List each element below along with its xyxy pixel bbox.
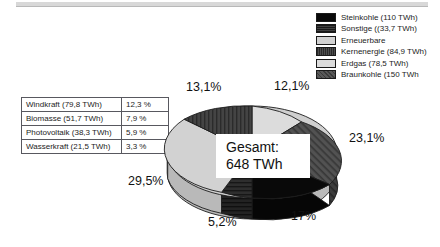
legend-item-steinkohle: Steinkohle (110 TWh) (316, 12, 440, 22)
legend-label-erdgas: Erdgas (78,5 TWh) (341, 59, 408, 68)
renewables-breakdown-table: Windkraft (79,8 TWh) 12,3 % Biomasse (51… (21, 97, 169, 154)
data-label-erdgas: 12,1% (274, 79, 309, 93)
legend-item-erneuerbare: Erneuerbare (316, 35, 440, 45)
data-label-erneuerbare: 29,5% (128, 174, 163, 188)
table-row: Windkraft (79,8 TWh) 12,3 % (22, 98, 169, 112)
legend-swatch-kernenergie (316, 47, 336, 56)
legend-swatch-steinkohle (316, 13, 336, 22)
legend-swatch-erdgas (316, 59, 336, 68)
table-row: Biomasse (51,7 TWh) 7,9 % (22, 112, 169, 126)
legend-item-erdgas: Erdgas (78,5 TWh) (316, 58, 440, 68)
legend-label-braunkohle: Braunkohle (150 TWh (341, 70, 419, 79)
legend-label-steinkohle: Steinkohle (110 TWh) (341, 13, 418, 22)
legend-label-erneuerbare: Erneuerbare (341, 36, 385, 45)
total-value: 648 TWh (226, 156, 309, 173)
table-row: Photovoltaik (38,3 TWh) 5,9 % (22, 126, 169, 140)
top-divider-bar (16, 2, 428, 7)
data-label-steinkohle: 17% (291, 209, 316, 223)
legend-label-kernenergie: Kernenergie (84,9 TWh) (341, 47, 427, 56)
table-cell-name: Photovoltaik (38,3 TWh) (22, 126, 122, 140)
legend-swatch-erneuerbare (316, 36, 336, 45)
data-label-sonstige: 5,2% (208, 215, 237, 229)
table-cell-name: Windkraft (79,8 TWh) (22, 98, 122, 112)
legend-label-sonstige: Sonstige ((33,7 TWh) (341, 24, 417, 33)
legend-item-kernenergie: Kernenergie (84,9 TWh) (316, 47, 440, 57)
chart-legend: Steinkohle (110 TWh) Sonstige ((33,7 TWh… (316, 12, 440, 81)
total-label: Gesamt: (226, 139, 309, 156)
total-callout-box: Gesamt: 648 TWh (216, 134, 310, 178)
legend-item-sonstige: Sonstige ((33,7 TWh) (316, 24, 440, 34)
table-cell-name: Wasserkraft (21,5 TWh) (22, 140, 122, 154)
table-row: Wasserkraft (21,5 TWh) 3,3 % (22, 140, 169, 154)
table-cell-name: Biomasse (51,7 TWh) (22, 112, 122, 126)
data-label-braunkohle: 23,1% (349, 131, 384, 145)
data-label-kernenergie: 13,1% (186, 80, 221, 94)
legend-swatch-sonstige (316, 24, 336, 33)
